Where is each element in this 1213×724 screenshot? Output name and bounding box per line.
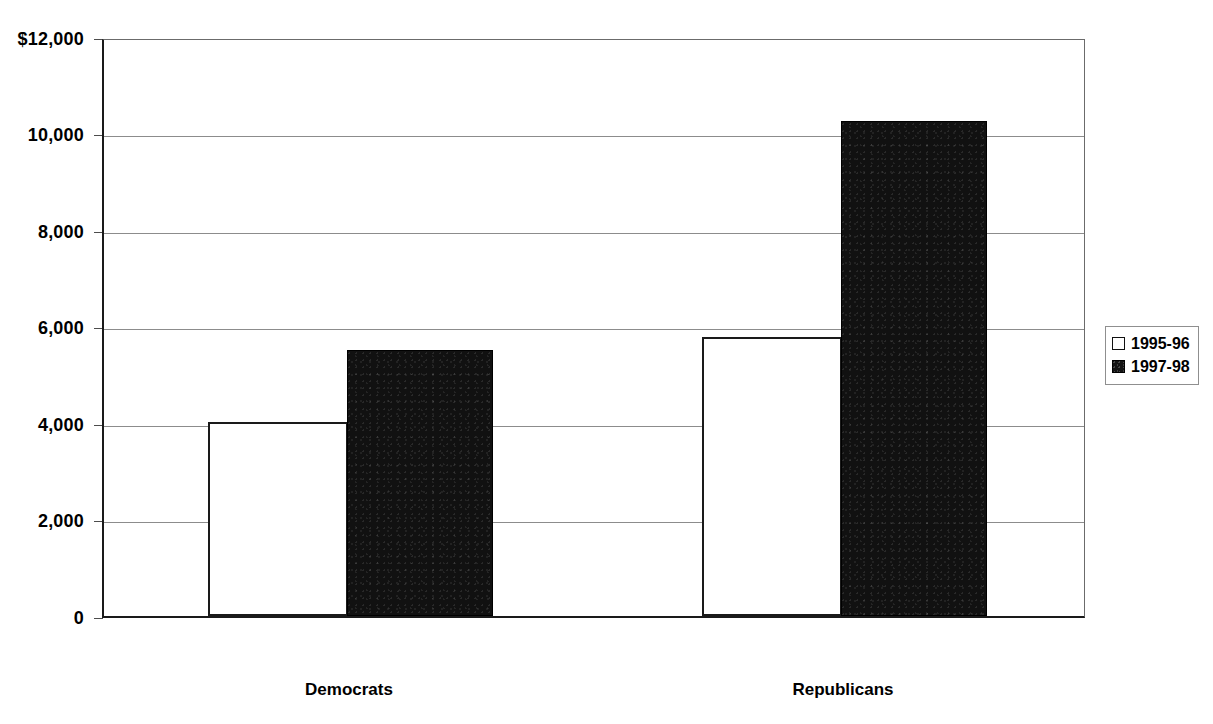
footer-caption <box>152 707 1112 724</box>
legend: 1995-96 1997-98 <box>1105 326 1199 385</box>
open-square-icon <box>1112 337 1125 350</box>
x-axis-label-republicans: Republicans <box>700 680 986 700</box>
y-axis-label-10000: 10,000 <box>0 125 84 146</box>
y-axis-tick-0 <box>94 618 103 619</box>
x-axis-label-democrats: Democrats <box>206 680 492 700</box>
bar-democrats-1995-96 <box>208 422 348 616</box>
bar-chart: $12,000 10,000 8,000 6,000 4,000 2,000 0… <box>0 0 1213 724</box>
legend-label-1995-96: 1995-96 <box>1131 335 1190 353</box>
bar-republicans-1995-96 <box>702 337 842 616</box>
plot-area <box>102 39 1085 618</box>
bar-republicans-1997-98 <box>841 121 987 616</box>
legend-item-1995-96[interactable]: 1995-96 <box>1112 332 1190 355</box>
legend-item-1997-98[interactable]: 1997-98 <box>1112 355 1190 378</box>
legend-label-1997-98: 1997-98 <box>1131 358 1190 376</box>
filled-square-icon <box>1112 360 1125 373</box>
y-axis-label-0: 0 <box>0 608 84 629</box>
y-axis-label-8000: 8,000 <box>0 222 84 243</box>
y-axis-label-4000: 4,000 <box>0 415 84 436</box>
bar-democrats-1997-98 <box>347 350 493 616</box>
y-axis-label-2000: 2,000 <box>0 511 84 532</box>
y-axis-label-12000: $12,000 <box>0 29 84 50</box>
y-axis-label-6000: 6,000 <box>0 318 84 339</box>
